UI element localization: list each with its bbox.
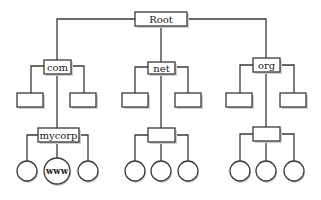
node-net-c1 [125,161,145,181]
edge-orgmid-c3 [280,134,294,162]
node-org-left [226,93,252,107]
edge-orgmid-c1 [240,134,253,162]
node-www-label: www [45,166,69,176]
edge-com-left [31,66,44,93]
dns-tree-diagram: Root com net org mycorp [0,0,321,200]
node-net-right [175,93,201,107]
node-net-left [122,93,148,107]
node-com-left [17,93,43,107]
node-net: net [148,62,177,76]
node-org-mid [253,127,282,143]
node-org: org [253,58,282,74]
node-net-c2 [151,161,171,181]
node-net-c3 [178,161,198,181]
edge-mycorp-c1 [27,135,38,162]
node-org-right [280,93,306,107]
node-mycorp-c3 [78,161,98,181]
node-com-label: com [47,62,69,73]
node-mycorp-label: mycorp [40,130,78,141]
edge-org-right [280,65,294,93]
node-root: Root [135,12,189,28]
edge-root-com [57,19,135,60]
node-net-mid [148,128,177,144]
node-org-label: org [258,60,276,71]
level2-boxes [17,93,308,109]
node-com: com [44,60,73,76]
edge-net-left [135,67,148,93]
node-root-label: Root [149,14,173,25]
node-com-right [70,93,96,107]
edge-org-left [240,65,253,93]
leaf-circles: www [17,158,305,186]
node-mycorp: mycorp [38,128,81,144]
node-org-c1 [230,161,250,181]
edge-netmid-c1 [135,135,148,162]
node-org-c3 [284,161,304,181]
node-mycorp-c1 [17,161,37,181]
node-net-label: net [153,63,169,74]
edge-root-org [187,19,266,58]
node-org-c2 [256,161,276,181]
